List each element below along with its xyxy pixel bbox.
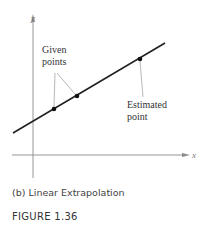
leader-estimated — [140, 61, 143, 97]
x-axis — [12, 153, 190, 157]
leader-given-2 — [57, 73, 75, 94]
x-axis-label: x — [191, 150, 196, 160]
given-point-1 — [52, 107, 57, 112]
estimated-point-label-line2: point — [127, 111, 148, 122]
y-axis-label: y — [30, 13, 35, 23]
panel-caption: (b) Linear Extrapolation — [12, 187, 125, 198]
x-axis-arrow-icon — [182, 153, 190, 157]
leader-given-1 — [54, 73, 55, 107]
given-points-label-line1: Given — [42, 44, 66, 55]
given-point-2 — [75, 94, 80, 99]
given-points-label-line2: points — [42, 56, 67, 67]
y-axis — [31, 14, 35, 178]
figure-label: FIGURE 1.36 — [12, 211, 78, 222]
estimated-point — [138, 57, 143, 62]
estimated-point-label-line1: Estimated — [127, 99, 167, 110]
